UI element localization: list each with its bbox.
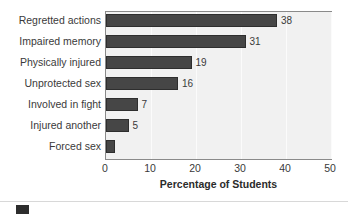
category-label: Involved in fight bbox=[0, 98, 101, 111]
bar-row bbox=[106, 138, 331, 159]
bar bbox=[106, 14, 277, 27]
x-tick-label: 30 bbox=[234, 161, 246, 175]
bar bbox=[106, 119, 129, 132]
bar-row: 16 bbox=[106, 75, 331, 96]
category-label: Physically injured bbox=[0, 56, 101, 69]
bar-value-label: 5 bbox=[133, 117, 139, 134]
bar-row: 7 bbox=[106, 96, 331, 117]
x-tick-label: 20 bbox=[189, 161, 201, 175]
x-axis-ticks: 01020304050 bbox=[105, 161, 332, 177]
bar-value-label: 7 bbox=[142, 96, 148, 113]
bar bbox=[106, 56, 192, 69]
x-tick-label: 0 bbox=[102, 161, 108, 175]
x-tick-label: 40 bbox=[279, 161, 291, 175]
bar bbox=[106, 77, 178, 90]
gridline bbox=[331, 12, 332, 159]
bar bbox=[106, 140, 115, 153]
category-label: Injured another bbox=[0, 119, 101, 132]
category-axis-labels: Regretted actionsImpaired memoryPhysical… bbox=[0, 11, 101, 158]
bar-value-label: 38 bbox=[281, 12, 292, 29]
x-tick-label: 50 bbox=[324, 161, 336, 175]
plot-area: 3831191675 bbox=[105, 11, 332, 160]
legend-strip bbox=[0, 201, 348, 214]
category-label: Regretted actions bbox=[0, 14, 101, 27]
category-label: Unprotected sex bbox=[0, 77, 101, 90]
category-label: Impaired memory bbox=[0, 35, 101, 48]
legend-swatch bbox=[16, 205, 29, 214]
x-axis-title: Percentage of Students bbox=[105, 178, 332, 190]
bar bbox=[106, 98, 138, 111]
category-label: Forced sex bbox=[0, 140, 101, 153]
bar-series: 3831191675 bbox=[106, 12, 331, 159]
bar-value-label: 31 bbox=[250, 33, 261, 50]
bar-row: 38 bbox=[106, 12, 331, 33]
bar-row: 5 bbox=[106, 117, 331, 138]
x-tick-label: 10 bbox=[144, 161, 156, 175]
bar-row: 31 bbox=[106, 33, 331, 54]
bar bbox=[106, 35, 246, 48]
bar-row: 19 bbox=[106, 54, 331, 75]
bar-value-label: 16 bbox=[182, 75, 193, 92]
bar-chart-figure: Regretted actionsImpaired memoryPhysical… bbox=[0, 0, 348, 214]
bar-value-label: 19 bbox=[196, 54, 207, 71]
